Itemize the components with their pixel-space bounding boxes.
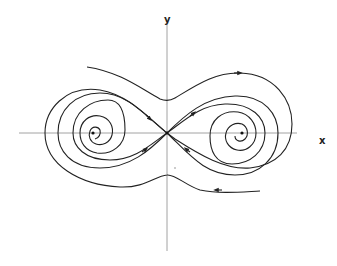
trajectory-upper-outer: [87, 67, 292, 168]
trajectory-left-outer: [45, 89, 260, 192]
right-spiral: [167, 104, 265, 164]
saddle-point: [166, 132, 169, 135]
phase-portrait: y x: [0, 0, 337, 266]
stray-mark: [174, 167, 176, 169]
left-focus-point: [91, 131, 94, 134]
right-focus-point: [240, 131, 243, 134]
left-spiral: [73, 100, 167, 160]
y-axis-label: y: [164, 14, 171, 25]
x-axis-label: x: [319, 135, 326, 146]
